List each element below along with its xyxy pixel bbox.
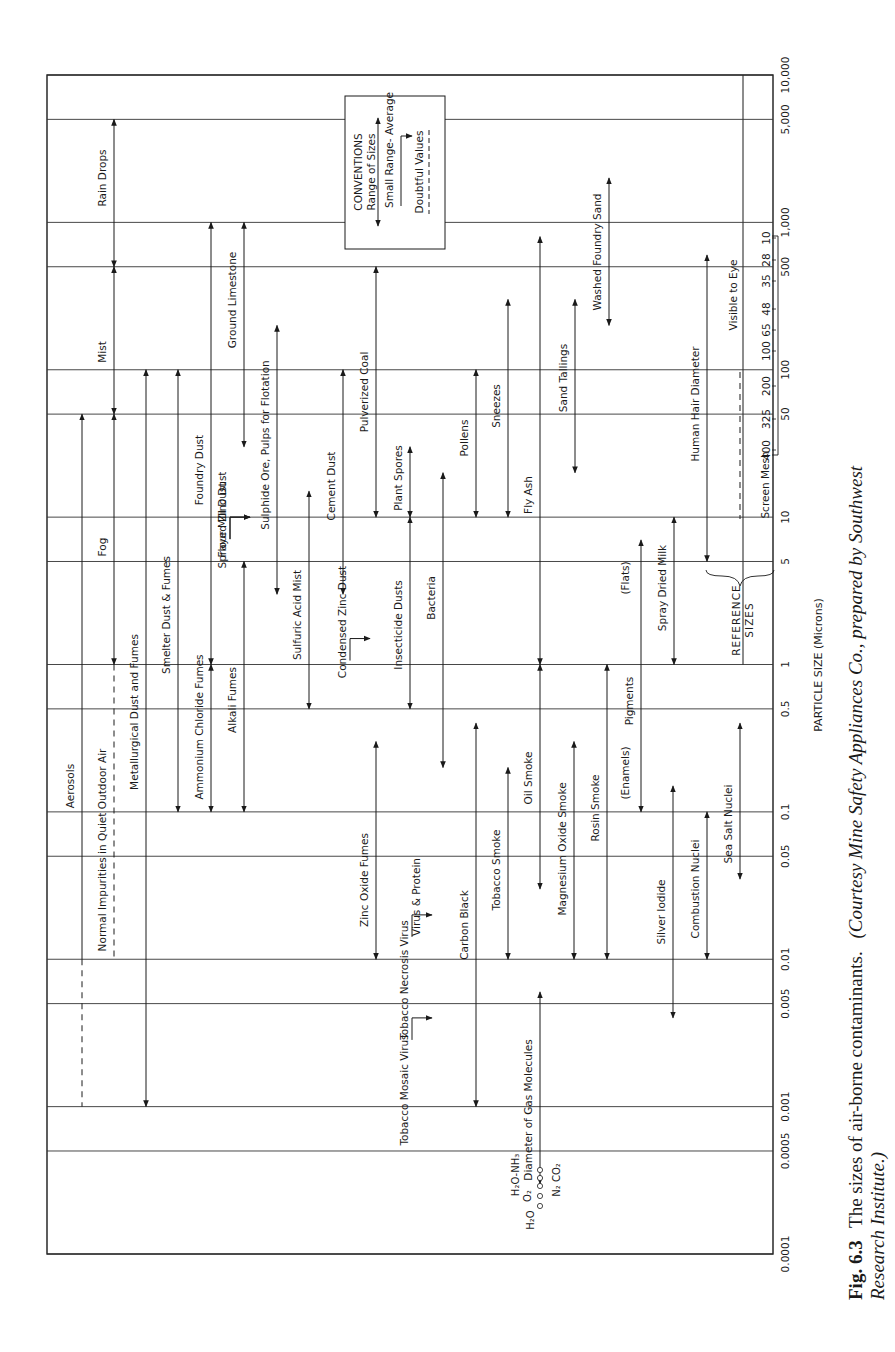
series-label: Foundry Dust — [193, 435, 205, 505]
conventions-legend: CONVENTIONSRange of SizesSmall Range- Av… — [345, 92, 445, 249]
average-marker — [230, 517, 250, 539]
tick-label: 0.0001 — [779, 1236, 791, 1273]
mesh-value: 35 — [760, 274, 772, 287]
series-label: Spray Dried Milk — [656, 544, 668, 631]
reference-sizes: Visible to EyeScreen Mesh400325200100654… — [706, 231, 778, 655]
series-label: Silver Iodide — [655, 879, 667, 944]
series-label: Combustion Nuclei — [689, 840, 701, 939]
svg-text:Fig. 6.3 The sizes of: Fig. 6.3 The sizes of air-borne contamin… — [845, 465, 867, 1300]
convention-average: Small Range- Average — [383, 92, 395, 208]
visible-to-eye-label: Visible to Eye — [727, 260, 739, 331]
mesh-value: 325 — [760, 409, 772, 429]
series-label: Tobacco Necrosis Virus — [398, 920, 410, 1041]
convention-range: Range of Sizes — [365, 133, 377, 210]
series-label: Sprayed Zinc Dust — [216, 472, 228, 569]
mesh-value: 28 — [760, 253, 772, 266]
gas-molecule-dot — [537, 1175, 542, 1180]
series-label: Rain Drops — [96, 149, 108, 206]
figure-caption: Fig. 6.3 The sizes of air-borne contamin… — [845, 465, 889, 1301]
series-label: Magnesium Oxide Smoke — [556, 782, 568, 915]
series-label: Smelter Dust & Fumes — [160, 556, 172, 674]
gas-molecule-dot — [537, 1193, 542, 1198]
particle-size-chart: 0.00010.00050.0010.0050.010.050.10.51510… — [0, 0, 895, 1352]
series-label: Mist — [96, 341, 108, 363]
series-label: Normal Impurities in Quiet Outdoor Air — [96, 748, 108, 951]
series-label: Pollens — [458, 420, 470, 457]
series-label: Pulverized Coal — [358, 352, 370, 433]
series-label: Sulphide Ore, Pulps for Flotation — [259, 360, 271, 529]
x-axis-title: PARTICLE SIZE (Microns) — [812, 598, 825, 732]
tick-label: 10 — [779, 510, 791, 523]
tick-label: 0.01 — [779, 948, 791, 971]
figure-number: Fig. 6.3 — [845, 1240, 866, 1300]
tick-label: 0.05 — [779, 845, 791, 868]
series-label: Pigments — [623, 677, 635, 726]
gas-molecule-dot — [537, 1203, 542, 1208]
x-axis-label: PARTICLE SIZE (Microns) — [812, 598, 825, 732]
axis-ticks: 0.00010.00050.0010.0050.010.050.10.51510… — [779, 57, 791, 1273]
series-label: Rosin Smoke — [589, 774, 601, 841]
gas-molecule-dot — [537, 1167, 542, 1172]
series-label: Human Hair Diameter — [689, 346, 701, 462]
gas-molecule-dot — [537, 1183, 542, 1188]
convention-doubtful: Doubtful Values — [413, 131, 425, 214]
mesh-value: 10 — [760, 231, 772, 244]
series-label: Metallurgical Dust and Fumes — [128, 634, 140, 790]
series-label: Sulfuric Acid Mist — [291, 570, 303, 660]
series-label: Aerosols — [64, 764, 76, 808]
tick-label: 0.005 — [779, 989, 791, 1019]
series-label: Condensed Zinc Dust — [336, 566, 348, 678]
series-ranges — [82, 119, 740, 1183]
gas-label-o2: O₂ — [522, 1190, 533, 1202]
tick-label: 0.1 — [779, 804, 791, 821]
tick-label: 100 — [779, 360, 791, 380]
tick-label: 5 — [779, 558, 791, 565]
chart-canvas: 0.00010.00050.0010.0050.010.050.10.51510… — [0, 0, 895, 1352]
mesh-value: 400 — [760, 440, 772, 460]
series-label: Alkali Fumes — [226, 667, 238, 733]
tick-label: 0.5 — [779, 701, 791, 718]
series-label: Oil Smoke — [522, 752, 534, 805]
figure-credit-line2: Research Institute.) — [867, 1152, 889, 1301]
tick-label: 1 — [779, 661, 791, 668]
tick-label: 500 — [779, 257, 791, 277]
series-label: Ammonium Chloride Fumes — [193, 654, 205, 799]
conventions-title: CONVENTIONS — [352, 133, 364, 211]
mesh-value: 65 — [760, 323, 772, 336]
tick-label: 1,000 — [779, 207, 791, 237]
series-label: Virus & Protein — [410, 858, 422, 936]
series-label: Sand Tallings — [557, 344, 569, 412]
mesh-value: 48 — [760, 302, 772, 315]
series-label: Insecticide Dusts — [392, 580, 404, 669]
series-label: Carbon Black — [458, 889, 470, 959]
gas-label-n2-co2: N₂ CO₂ — [551, 1163, 562, 1197]
figure-credit: (Courtesy Mine Safety Appliances Co., pr… — [845, 465, 867, 938]
tick-label: 50 — [779, 407, 791, 420]
series-label: Tobacco Mosaic Virus — [398, 1034, 410, 1146]
tick-label: 0.0005 — [779, 1133, 791, 1170]
average-marker — [350, 639, 370, 661]
series-label: Fly Ash — [522, 476, 534, 514]
series-label: Sneezes — [490, 384, 502, 428]
series-label: Washed Foundry Sand — [591, 193, 603, 310]
series-label: Bacteria — [425, 576, 437, 620]
reference-brace — [706, 570, 774, 586]
tick-label: 5,000 — [779, 104, 791, 134]
series-label: Fog — [96, 538, 108, 557]
series-label: Sea Salt Nuclei — [722, 785, 734, 864]
reference-sizes-label-2: SIZES — [743, 602, 755, 637]
figure-title: The sizes of air-borne contaminants. — [845, 951, 866, 1228]
gas-molecules: H₂O-NH₃O₂H₂ON₂ CO₂ — [510, 1154, 562, 1230]
average-marker — [230, 517, 250, 539]
gas-label-h2o: H₂O — [525, 1210, 536, 1230]
series-label: Ground Limestone — [226, 252, 238, 349]
series-label: Cement Dust — [325, 452, 337, 521]
reference-sizes-label: REFERENCE — [730, 584, 742, 655]
screen-mesh-label: Screen Mesh — [759, 451, 771, 518]
series-label: Plant Spores — [392, 445, 404, 511]
series-label: Diameter of Gas Molecules — [522, 1039, 534, 1180]
mesh-value: 100 — [760, 341, 772, 361]
tick-label: 0.001 — [779, 1092, 791, 1122]
average-marker — [412, 1018, 432, 1040]
series-label: Zinc Oxide Fumes — [358, 833, 370, 927]
